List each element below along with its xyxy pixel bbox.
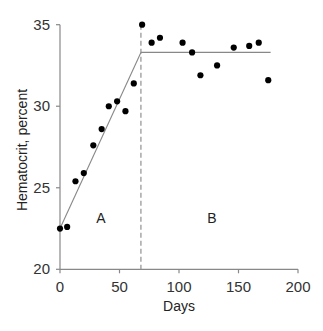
fit-line	[60, 52, 141, 228]
data-point	[114, 98, 120, 104]
x-tick-label: 50	[111, 278, 128, 295]
x-tick-label: 100	[166, 278, 191, 295]
x-tick-label: 0	[56, 278, 64, 295]
y-tick-label: 30	[33, 97, 50, 114]
data-point	[149, 40, 155, 46]
x-ticks: 050100150200	[56, 269, 311, 295]
data-point	[57, 225, 63, 231]
data-point	[106, 103, 112, 109]
data-point	[214, 62, 220, 68]
x-axis-title: Days	[163, 298, 195, 314]
x-tick-label: 200	[285, 278, 310, 295]
data-point	[64, 224, 70, 230]
region-a-label: A	[96, 210, 106, 226]
data-point	[81, 170, 87, 176]
y-axis-title: Hematocrit, percent	[14, 89, 30, 211]
data-point	[90, 142, 96, 148]
hematocrit-chart: 20253035 050100150200 Days Hematocrit, p…	[0, 0, 323, 331]
data-points	[57, 22, 271, 232]
data-point	[122, 108, 128, 114]
data-point	[131, 80, 137, 86]
data-point	[246, 43, 252, 49]
y-tick-label: 35	[33, 16, 50, 33]
data-point	[157, 35, 163, 41]
data-point	[99, 126, 105, 132]
y-tick-label: 25	[33, 179, 50, 196]
data-point	[197, 72, 203, 78]
data-point	[265, 77, 271, 83]
y-tick-label: 20	[33, 260, 50, 277]
data-point	[256, 40, 262, 46]
y-ticks: 20253035	[33, 16, 60, 278]
data-point	[72, 178, 78, 184]
data-point	[179, 40, 185, 46]
data-point	[139, 22, 145, 28]
region-b-label: B	[207, 210, 216, 226]
data-point	[231, 44, 237, 50]
data-point	[189, 49, 195, 55]
x-tick-label: 150	[226, 278, 251, 295]
